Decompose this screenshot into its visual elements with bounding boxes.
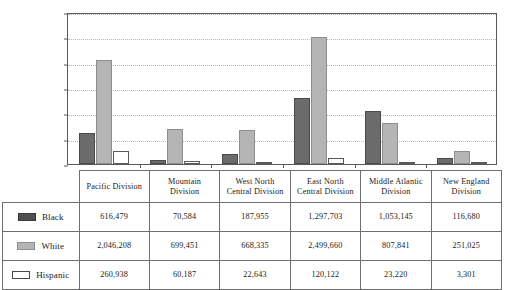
bar-hispanic-3: [328, 158, 344, 164]
table-cell: 23,220: [361, 261, 431, 290]
bar-group: [140, 14, 212, 164]
legend-item-hispanic[interactable]: Hispanic: [3, 261, 80, 290]
bar-white-2: [239, 130, 255, 164]
black-swatch: [18, 213, 36, 221]
bar-white-4: [382, 123, 398, 164]
x-axis-tick-mark: [140, 164, 141, 168]
data-table-wrapper: Pacific DivisionMountainDivisionWest Nor…: [2, 170, 502, 290]
bar-white-5: [454, 151, 470, 164]
table-cell: 60,187: [149, 261, 219, 290]
x-axis-tick-mark: [426, 164, 427, 168]
legend-item-black[interactable]: Black: [3, 203, 80, 232]
bar-black-0: [79, 133, 95, 164]
table-cell: 616,479: [79, 203, 149, 232]
column-header-4: Middle AtlanticDivision: [361, 171, 431, 203]
table-cell: 22,643: [220, 261, 290, 290]
column-header-line: West North: [221, 177, 288, 186]
x-axis-tick-mark: [355, 164, 356, 168]
legend-label: Hispanic: [36, 270, 69, 280]
table-cell: 187,955: [220, 203, 290, 232]
table-row: White2,046,208699,451668,3352,499,660807…: [3, 232, 502, 261]
bar-group: [283, 14, 355, 164]
column-header-line: Division: [151, 187, 218, 196]
table-cell: 70,584: [149, 203, 219, 232]
column-header-line: Division: [433, 187, 500, 196]
data-table: Pacific DivisionMountainDivisionWest Nor…: [2, 170, 502, 290]
column-header-3: East NorthCentral Division: [290, 171, 360, 203]
table-cell: 2,046,208: [79, 232, 149, 261]
bar-hispanic-1: [184, 161, 200, 164]
bar-chart: 3,000,0002,500,0002,000,0001,500,0001,00…: [0, 0, 506, 186]
bar-white-1: [167, 129, 183, 164]
legend-label: Black: [42, 212, 64, 222]
column-header-line: New England: [433, 177, 500, 186]
y-axis-tick-mark: [64, 166, 68, 167]
column-header-line: Central Division: [292, 187, 359, 196]
column-header-5: New EnglandDivision: [431, 171, 501, 203]
bar-black-2: [222, 154, 238, 164]
bar-hispanic-5: [471, 162, 487, 164]
bar-hispanic-0: [113, 151, 129, 164]
table-row: Black616,47970,584187,9551,297,7031,053,…: [3, 203, 502, 232]
legend-label: White: [41, 241, 64, 251]
column-header-2: West NorthCentral Division: [220, 171, 290, 203]
table-header-row: Pacific DivisionMountainDivisionWest Nor…: [3, 171, 502, 203]
table-cell: 260,938: [79, 261, 149, 290]
bar-group: [426, 14, 498, 164]
bar-group: [68, 14, 140, 164]
table-cell: 699,451: [149, 232, 219, 261]
table-cell: 807,841: [361, 232, 431, 261]
column-header-line: Mountain: [151, 177, 218, 186]
bar-black-1: [150, 160, 166, 164]
x-axis-tick-mark: [211, 164, 212, 168]
bar-group: [211, 14, 283, 164]
bar-hispanic-4: [399, 162, 415, 164]
bar-black-5: [437, 158, 453, 164]
column-header-line: Middle Atlantic: [362, 177, 429, 186]
legend-item-white[interactable]: White: [3, 232, 80, 261]
bar-black-4: [365, 111, 381, 164]
table-cell: 1,297,703: [290, 203, 360, 232]
table-cell: 251,025: [431, 232, 501, 261]
column-header-line: Pacific Division: [81, 182, 148, 191]
column-header-1: MountainDivision: [149, 171, 219, 203]
hispanic-swatch: [12, 271, 30, 279]
plot-area: [67, 13, 497, 165]
table-cell: 668,335: [220, 232, 290, 261]
x-axis-tick-mark: [283, 164, 284, 168]
column-header-line: Division: [362, 187, 429, 196]
table-cell: 3,301: [431, 261, 501, 290]
bar-white-0: [96, 60, 112, 164]
bar-white-3: [311, 37, 327, 164]
table-cell: 2,499,660: [290, 232, 360, 261]
table-cell: 120,122: [290, 261, 360, 290]
column-header-line: East North: [292, 177, 359, 186]
table-cell: 1,053,145: [361, 203, 431, 232]
table-cell: 116,680: [431, 203, 501, 232]
white-swatch: [17, 242, 35, 250]
table-row: Hispanic260,93860,18722,643120,12223,220…: [3, 261, 502, 290]
column-header-line: Central Division: [221, 187, 288, 196]
bar-group: [355, 14, 427, 164]
bar-black-3: [294, 98, 310, 164]
table-corner-cell: [3, 171, 80, 203]
bar-hispanic-2: [256, 162, 272, 164]
column-header-0: Pacific Division: [79, 171, 149, 203]
